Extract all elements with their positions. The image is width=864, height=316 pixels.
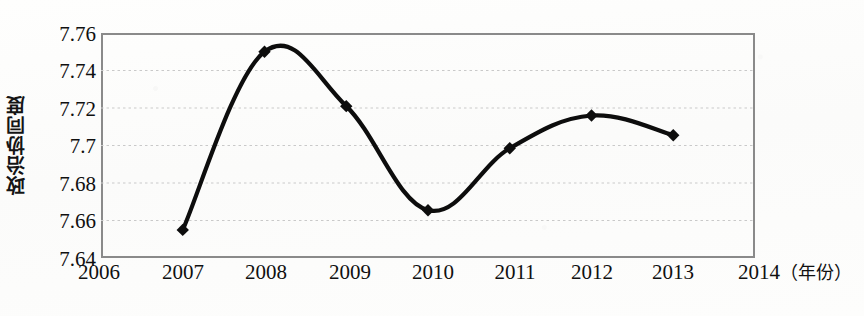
series-markers (177, 46, 680, 237)
x-tick-label: 2012 (571, 262, 613, 283)
x-axis-unit-label: （年份） (780, 262, 852, 283)
gridlines (101, 71, 755, 221)
data-point-marker (177, 224, 189, 236)
x-tick-label: 2010 (412, 262, 454, 283)
x-tick-label: 2006 (78, 262, 120, 283)
series-line (183, 46, 674, 230)
x-tick-label: 2008 (245, 262, 287, 283)
x-tick-label: 2007 (162, 262, 204, 283)
x-tick-label: 2009 (329, 262, 371, 283)
data-point-marker (422, 204, 434, 216)
x-tick-label: 2011 (494, 262, 535, 283)
x-tick-label: 2014 (738, 260, 780, 284)
data-point-marker (667, 129, 679, 141)
line-chart: 政治协同度 7.76 7.74 7.72 7.7 7.68 7.66 7.64 … (0, 0, 864, 316)
x-axis-end-label: 2014（年份） (738, 262, 852, 283)
data-point-marker (585, 109, 597, 121)
x-tick-label: 2013 (652, 262, 694, 283)
